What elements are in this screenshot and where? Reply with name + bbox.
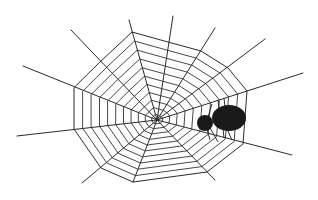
spider-head [197, 115, 213, 131]
spider-web-illustration: Spider web with spider [0, 0, 318, 200]
spider-web-graphic [0, 0, 318, 200]
web-ray [17, 120, 157, 136]
web-ring [124, 85, 194, 146]
web-radial-threads [17, 16, 303, 183]
web-ray [23, 66, 157, 120]
spider-abdomen [212, 105, 246, 131]
web-ring [83, 41, 238, 176]
